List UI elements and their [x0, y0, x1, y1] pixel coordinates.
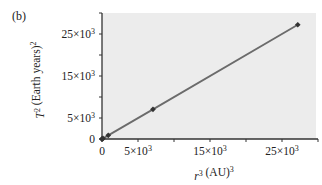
x-tick-label: 5×103: [124, 144, 152, 157]
y-tick-label: 0: [89, 133, 95, 145]
x-tick-label: 15×103: [193, 144, 227, 157]
x-axis-title: r3 (AU)3: [194, 165, 234, 182]
y-tick-label: 5×103: [67, 111, 95, 124]
chart: 05×10315×10325×10305×10315×10325×103 r3 …: [0, 0, 322, 185]
x-tick-label: 25×103: [265, 144, 299, 157]
y-tick-label: 15×103: [62, 69, 96, 82]
y-tick-label: 25×103: [62, 27, 96, 40]
y-axis-title: T2 (Earth years)2: [29, 42, 46, 119]
x-tick-label: 0: [99, 145, 105, 157]
